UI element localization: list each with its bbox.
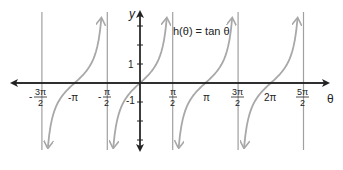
svg-text:3π: 3π bbox=[35, 87, 46, 97]
x-axis-label: θ bbox=[327, 92, 334, 106]
x-tick-3pi-over-2: 3π 2 bbox=[231, 87, 244, 108]
svg-text:3π: 3π bbox=[232, 87, 243, 97]
function-label: h(θ) = tan θ bbox=[173, 25, 230, 37]
svg-text:5π: 5π bbox=[297, 87, 308, 97]
x-tick-2pi: 2π bbox=[264, 92, 277, 103]
svg-text:-: - bbox=[29, 91, 32, 102]
y-tick-label-neg1: -1 bbox=[126, 95, 135, 106]
svg-text:π: π bbox=[170, 87, 176, 97]
svg-text:2: 2 bbox=[38, 98, 43, 108]
x-tick-pi: π bbox=[203, 92, 210, 103]
svg-text:π: π bbox=[104, 87, 110, 97]
svg-text:2: 2 bbox=[104, 98, 109, 108]
y-axis-label: y bbox=[128, 7, 136, 21]
x-tick-5pi-over-2: 5π 2 bbox=[296, 87, 309, 108]
x-tick-neg-pi: -π bbox=[68, 92, 78, 103]
svg-text:2: 2 bbox=[300, 98, 305, 108]
svg-text:2: 2 bbox=[235, 98, 240, 108]
x-tick-neg-pi-over-2: - π 2 bbox=[98, 87, 111, 108]
svg-text:-: - bbox=[98, 91, 101, 102]
y-tick-label-1: 1 bbox=[128, 59, 134, 70]
x-tick-neg-3pi-over-2: - 3π 2 bbox=[29, 87, 47, 108]
x-tick-pi-over-2: π 2 bbox=[169, 87, 177, 108]
tangent-graph: y θ h(θ) = tan θ 1 -1 -π π 2π - 3π 2 - π… bbox=[0, 0, 343, 170]
svg-text:2: 2 bbox=[170, 98, 175, 108]
